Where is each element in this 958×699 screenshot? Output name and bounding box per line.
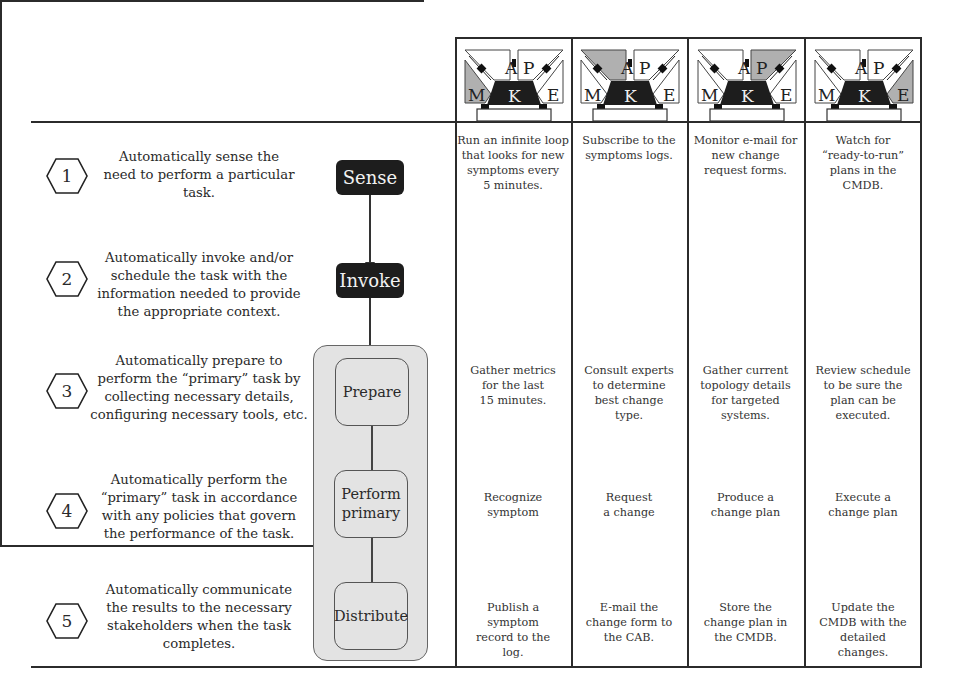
table-cell-line: request forms.	[687, 163, 804, 178]
table-cell: Recognizesymptom	[455, 490, 571, 520]
process-sense-label: Sense	[343, 167, 397, 188]
table-cell: Run an infinite loopthat looks for newsy…	[455, 133, 571, 193]
svg-text:A: A	[854, 58, 868, 78]
step-description-line: Automatically communicate	[84, 581, 314, 599]
step-number: 3	[46, 373, 88, 409]
svg-text:P: P	[873, 58, 884, 78]
table-cell-line: Gather metrics	[455, 363, 571, 378]
step-description: Automatically sense theneed to perform a…	[84, 148, 314, 202]
process-perform-primary: Perform primary	[334, 470, 408, 538]
table-cell: Gather metricsfor the last15 minutes.	[455, 363, 571, 408]
table-cell: Review scheduleto be sure theplan can be…	[804, 363, 922, 423]
table-cell-line: plan can be	[804, 393, 922, 408]
table-cell: Monitor e-mail fornew changerequest form…	[687, 133, 804, 178]
table-cell-line: Gather current	[687, 363, 804, 378]
step-description-line: collecting necessary details,	[84, 388, 314, 406]
table-cell: Execute achange plan	[804, 490, 922, 520]
table-cell-line: topology details	[687, 378, 804, 393]
table-cell-line: for the last	[455, 378, 571, 393]
table-cell-line: type.	[571, 408, 687, 423]
table-cell: E-mail thechange form tothe CAB.	[571, 600, 687, 645]
table-cell-line: CMDB with the	[804, 615, 922, 630]
table-cell-line: log.	[455, 645, 571, 660]
flow-connector	[369, 297, 371, 349]
table-cell-line: the CAB.	[571, 630, 687, 645]
svg-text:M: M	[584, 85, 601, 105]
step-description-line: the results to the necessary	[84, 599, 314, 617]
flow-connector	[371, 538, 373, 583]
process-invoke: Invoke	[336, 263, 404, 298]
svg-text:P: P	[639, 58, 650, 78]
table-cell: Watch for“ready-to-run”plans in theCMDB.	[804, 133, 922, 193]
process-prepare: Prepare	[335, 358, 409, 426]
step-number: 5	[46, 603, 88, 639]
svg-text:A: A	[620, 58, 634, 78]
svg-text:P: P	[523, 58, 534, 78]
step-description: Automatically communicatethe results to …	[84, 581, 314, 653]
process-distribute: Distribute	[334, 582, 408, 650]
step-number: 4	[46, 493, 88, 529]
step-description-line: the appropriate context.	[84, 303, 314, 321]
bottom-border	[31, 666, 922, 668]
svg-text:K: K	[624, 86, 637, 106]
table-cell: Update theCMDB with thedetailedchanges.	[804, 600, 922, 660]
table-cell-line: a change	[571, 505, 687, 520]
table-cell-line: Execute a	[804, 490, 922, 505]
mape-k-icon: APMEK	[461, 43, 567, 138]
step-description: Automatically invoke and/orschedule the …	[84, 249, 314, 321]
table-cell-line: detailed	[804, 630, 922, 645]
svg-text:K: K	[858, 86, 871, 106]
table-cell-line: executed.	[804, 408, 922, 423]
step-description-line: with any policies that govern	[84, 507, 314, 525]
flow-connector	[369, 194, 371, 270]
table-cell-line: the CMDB.	[687, 630, 804, 645]
process-perform-label-2: primary	[342, 504, 400, 523]
svg-text:M: M	[468, 85, 485, 105]
step-number: 2	[46, 261, 88, 297]
table-cell-line: plans in the	[804, 163, 922, 178]
step-description-line: schedule the task with the	[84, 267, 314, 285]
table-cell-line: changes.	[804, 645, 922, 660]
table-cell-line: symptom	[455, 505, 571, 520]
table-cell-line: symptoms logs.	[571, 148, 687, 163]
table-cell-line: new change	[687, 148, 804, 163]
step-description-line: task.	[84, 184, 314, 202]
table-cell-line: that looks for new	[455, 148, 571, 163]
table-cell: Consult expertsto determinebest changety…	[571, 363, 687, 423]
step-description-line: perform the “primary” task by	[84, 370, 314, 388]
svg-text:E: E	[547, 85, 559, 105]
process-sense: Sense	[336, 160, 404, 195]
svg-text:M: M	[701, 85, 718, 105]
mape-k-icon: APMEK	[577, 43, 683, 138]
step-description-line: completes.	[84, 635, 314, 653]
table-cell-line: Produce a	[687, 490, 804, 505]
table-cell-line: record to the	[455, 630, 571, 645]
table-cell-line: change plan	[687, 505, 804, 520]
table-cell: Subscribe to thesymptoms logs.	[571, 133, 687, 163]
step-number-badge: 1	[46, 158, 88, 194]
table-cell-line: to determine	[571, 378, 687, 393]
table-cell-line: Watch for	[804, 133, 922, 148]
svg-text:P: P	[756, 58, 767, 78]
table-cell: Produce achange plan	[687, 490, 804, 520]
table-cell-line: “ready-to-run”	[804, 148, 922, 163]
table-cell: Gather currenttopology detailsfor target…	[687, 363, 804, 423]
table-cell-line: symptom	[455, 615, 571, 630]
step-number-badge: 4	[46, 493, 88, 529]
step-description-line: configuring necessary tools, etc.	[84, 406, 314, 424]
process-perform-label-1: Perform	[341, 485, 400, 504]
table-cell-line: Consult experts	[571, 363, 687, 378]
step-description-line: information needed to provide	[84, 285, 314, 303]
table-cell-line: Publish a	[455, 600, 571, 615]
table-cell-line: Request	[571, 490, 687, 505]
step-number-badge: 5	[46, 603, 88, 639]
table-cell-line: Run an infinite loop	[455, 133, 571, 148]
table-cell: Store thechange plan inthe CMDB.	[687, 600, 804, 645]
step-description-line: stakeholders when the task	[84, 617, 314, 635]
svg-text:K: K	[508, 86, 521, 106]
table-cell: Requesta change	[571, 490, 687, 520]
step-number-badge: 3	[46, 373, 88, 409]
table-cell-line: CMDB.	[804, 178, 922, 193]
step-description: Automatically perform the“primary” task …	[84, 471, 314, 543]
table-cell-line: change form to	[571, 615, 687, 630]
